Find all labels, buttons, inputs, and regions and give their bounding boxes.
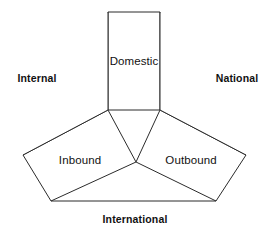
region-label-outbound: Outbound [165,155,216,167]
diagram-canvas: Domestic Inbound Outbound Internal Natio… [0,0,272,235]
region-label-domestic: Domestic [110,56,159,68]
axis-label-international: International [103,214,168,225]
region-label-inbound: Inbound [59,155,101,167]
axis-label-internal: Internal [17,73,56,84]
axis-label-national: National [216,73,259,84]
diagram-vector-graphic [0,0,272,235]
